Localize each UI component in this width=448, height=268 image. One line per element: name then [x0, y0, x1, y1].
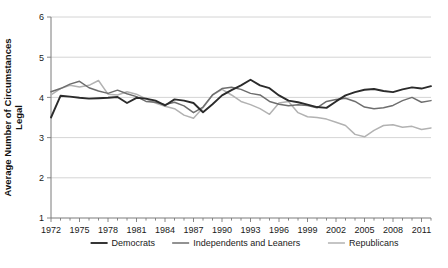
x-tick-label-1996: 1996	[269, 225, 289, 235]
y-tick-label-3: 3	[39, 133, 44, 143]
y-tick-label-1: 1	[39, 213, 44, 223]
x-tick-label-1993: 1993	[240, 225, 260, 235]
x-tick-label-1978: 1978	[98, 225, 118, 235]
legend-item-republicans-label: Republicans	[349, 238, 399, 248]
legend-item-democrats-label: Democrats	[112, 238, 156, 248]
x-tick-label-1984: 1984	[155, 225, 175, 235]
y-axis-label-line-0: Average Number of Circumstances	[2, 38, 13, 196]
y-tick-label-5: 5	[39, 53, 44, 63]
x-tick-label-1999: 1999	[297, 225, 317, 235]
y-tick-label-4: 4	[39, 93, 44, 103]
x-tick-label-1975: 1975	[69, 225, 89, 235]
y-axis-label-line-1: Legal	[13, 105, 24, 130]
series-line-democrats	[51, 80, 431, 118]
x-tick-label-2005: 2005	[354, 225, 374, 235]
line-chart: 1234561972197519781981198419871990199319…	[0, 0, 448, 268]
chart-figure: 1234561972197519781981198419871990199319…	[0, 0, 448, 268]
y-tick-label-6: 6	[39, 12, 44, 22]
x-tick-label-2011: 2011	[412, 225, 431, 235]
y-tick-label-2: 2	[39, 173, 44, 183]
x-tick-label-1981: 1981	[126, 225, 146, 235]
x-tick-label-1990: 1990	[212, 225, 232, 235]
x-tick-label-2002: 2002	[326, 225, 346, 235]
x-tick-label-1972: 1972	[41, 225, 61, 235]
x-tick-label-2008: 2008	[383, 225, 403, 235]
y-axis-label: Average Number of CircumstancesLegal	[2, 38, 24, 196]
x-tick-label-1987: 1987	[183, 225, 203, 235]
legend-item-independents-and-leaners-label: Independents and Leaners	[193, 238, 301, 248]
